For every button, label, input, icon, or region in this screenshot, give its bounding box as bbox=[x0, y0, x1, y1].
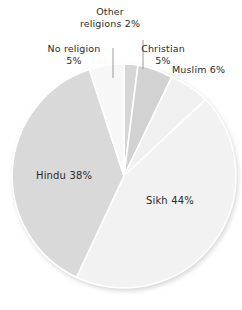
slice-label-no-religion: No religion 5% bbox=[28, 43, 120, 67]
slice-label-sikh: Sikh 44% bbox=[146, 195, 194, 207]
pie-chart: Other religions 2% No religion 5% Christ… bbox=[0, 0, 242, 310]
slice-label-other-religions: Other religions 2% bbox=[62, 6, 158, 30]
slice-label-hindu: Hindu 38% bbox=[36, 170, 92, 182]
slice-label-muslim: Muslim 6% bbox=[172, 64, 242, 76]
